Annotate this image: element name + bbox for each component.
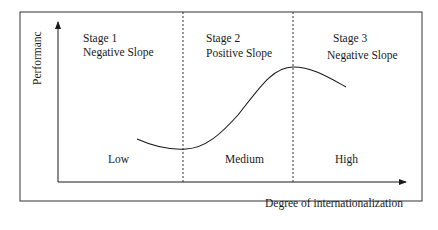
stage-1-slope: Negative Slope	[83, 46, 154, 59]
stage-1-title: Stage 1	[83, 32, 117, 45]
level-medium: Medium	[225, 153, 264, 165]
stage-2-title: Stage 2	[206, 32, 240, 45]
level-high: High	[335, 153, 358, 166]
stage-2-slope: Positive Slope	[206, 47, 272, 60]
y-axis-label: Performanc	[31, 31, 43, 85]
diagram-canvas: Performanc Stage 1 Negative Slope Stage …	[0, 0, 438, 230]
level-low: Low	[108, 153, 130, 165]
x-axis-label: Degree of internationalization	[265, 197, 403, 210]
stage-3-title: Stage 3	[333, 32, 367, 45]
performance-curve	[137, 67, 346, 149]
stage-3-slope: Negative Slope	[327, 49, 398, 62]
